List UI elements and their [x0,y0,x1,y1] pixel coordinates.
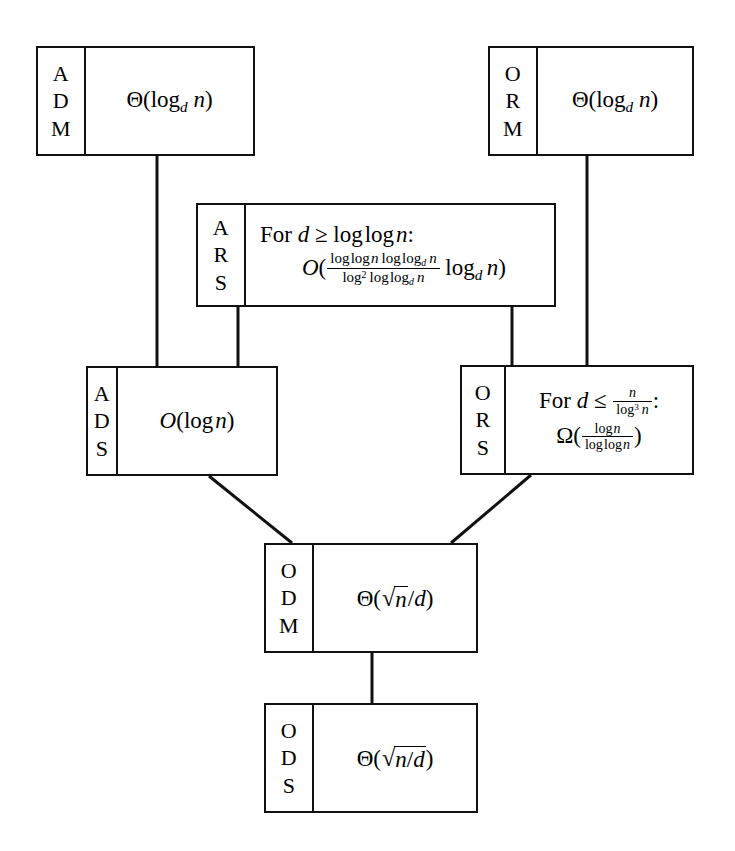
node-ars[interactable]: A R S For d ≥ log log n: O(log log n log… [196,203,556,307]
node-ors-condition: For d ≤ nlog3 n: [539,386,659,419]
node-ads-tag-letter-2: D [94,407,110,435]
node-odm-tag-letter-3: M [279,612,299,640]
node-ors-tag-letter-3: S [477,434,490,462]
node-ors-body: For d ≤ nlog3 n: Ω(log nlog log n) [506,367,692,473]
node-odm-tag: O D M [266,545,314,651]
node-orm-tag-letter-3: M [503,115,523,143]
node-ods-tag-letter-3: S [283,772,296,800]
node-ars-body: For d ≥ log log n: O(log log n log logd … [246,205,554,305]
node-orm-body: Θ(logd n) [538,48,692,154]
node-orm-tag-letter-2: R [505,87,520,115]
sqrt-icon: √n/d [381,744,426,772]
node-ads[interactable]: A D S O(log n) [86,366,278,476]
node-ors-fraction: log nlog log n [582,421,633,453]
node-ars-tag-letter-1: A [213,214,229,242]
node-ars-tag: A R S [198,205,246,305]
edge-ads-odm [209,476,292,543]
node-ars-condition: For d ≥ log log n: [260,222,414,248]
node-ors-formula: Ω(log nlog log n) [556,422,642,454]
node-odm[interactable]: O D M Θ(√n/d) [264,543,478,653]
diagram-canvas: A D M Θ(logd n) O R M Θ(logd n) A R S Fo… [0,0,735,851]
node-ars-tag-letter-3: S [215,269,228,297]
node-odm-tag-letter-1: O [281,557,297,585]
sqrt-icon: √n [381,584,408,612]
node-ods[interactable]: O D S Θ(√n/d) [264,703,478,813]
node-adm[interactable]: A D M Θ(logd n) [36,46,255,156]
node-ods-formula: Θ(√n/d) [357,744,434,772]
node-ads-tag: A D S [88,368,118,474]
node-ads-tag-letter-1: A [94,380,110,408]
node-ods-tag: O D S [266,705,314,811]
node-ods-tag-letter-2: D [281,744,297,772]
node-odm-formula: Θ(√n/d) [357,584,434,612]
node-ods-tag-letter-1: O [281,717,297,745]
node-ors-condition-fraction: nlog3 n [613,385,651,418]
node-ors-tag: O R S [462,367,506,473]
node-ars-tag-letter-2: R [213,241,228,269]
node-ars-fraction: log log n log logd nlog2 log logd n [327,250,439,288]
node-adm-tag-letter-2: D [53,87,69,115]
node-ads-formula: O(log n) [160,408,235,434]
node-adm-formula: Θ(logd n) [126,87,212,116]
node-ors[interactable]: O R S For d ≤ nlog3 n: Ω(log nlog log n) [460,365,694,475]
node-orm-tag-letter-1: O [505,60,521,88]
node-orm[interactable]: O R M Θ(logd n) [488,46,694,156]
node-ads-tag-letter-3: S [96,435,109,463]
node-orm-tag: O R M [490,48,538,154]
node-orm-formula: Θ(logd n) [572,87,658,116]
node-ors-tag-letter-2: R [475,406,490,434]
node-odm-body: Θ(√n/d) [314,545,476,651]
node-ors-tag-letter-1: O [475,379,491,407]
node-odm-tag-letter-2: D [281,584,297,612]
node-adm-body: Θ(logd n) [86,48,253,154]
edge-ors-odm [451,475,531,543]
node-adm-tag-letter-1: A [53,60,69,88]
node-ads-body: O(log n) [118,368,276,474]
node-ars-formula: O(log log n log logd nlog2 log logd n lo… [302,251,506,289]
node-ods-body: Θ(√n/d) [314,705,476,811]
node-adm-tag: A D M [38,48,86,154]
node-adm-tag-letter-3: M [51,115,71,143]
